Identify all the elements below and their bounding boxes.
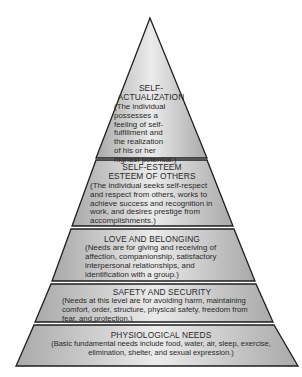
tier-description: (Needs are for giving and receiving of a… [85, 244, 219, 279]
maslow-pyramid-diagram: SELF- ACTUALIZATION (The individual poss… [0, 0, 302, 377]
tier-physiological: PHYSIOLOGICAL NEEDS (Basic fundamental n… [38, 331, 284, 357]
tier-description: (The individual seeks self-respect and r… [90, 182, 214, 226]
tier-safety-security: SAFETY AND SECURITY (Needs at this level… [62, 288, 262, 325]
desc-line: accomplishments.) [90, 217, 214, 226]
desc-line: fear, and protection.) [62, 315, 262, 324]
tier-description: (Basic fundamental needs include food, w… [38, 340, 284, 357]
tier-description: (The individual possesses a feeling of s… [114, 103, 188, 165]
desc-line: elimination, shelter, and sexual express… [38, 349, 284, 357]
tier-description: (Needs at this level are for avoiding ha… [62, 297, 262, 323]
tier-self-actualization: SELF- ACTUALIZATION (The individual poss… [112, 84, 190, 166]
desc-line: identification with a group.) [85, 271, 219, 280]
tier-esteem: SELF-ESTEEM ESTEEM OF OTHERS (The indivi… [90, 163, 214, 227]
tier-love-belonging: LOVE AND BELONGING (Needs are for giving… [85, 235, 219, 281]
